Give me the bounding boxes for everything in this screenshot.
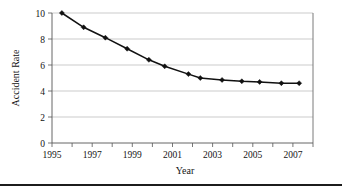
x-tick-label-1997: 1997 bbox=[83, 150, 102, 160]
y-tick-label-8: 8 bbox=[40, 35, 45, 45]
y-tick-label-0: 0 bbox=[40, 139, 45, 149]
x-axis-tick-labels: 1995 1997 1999 2001 2003 2005 2007 bbox=[43, 150, 303, 160]
x-tick-label-1995: 1995 bbox=[43, 150, 62, 160]
y-axis-title: Accident Rate bbox=[10, 49, 21, 106]
y-tick-label-6: 6 bbox=[40, 61, 45, 71]
y-axis-ticks bbox=[48, 13, 52, 143]
footer-rule bbox=[0, 184, 342, 186]
x-tick-label-2007: 2007 bbox=[283, 150, 302, 160]
x-tick-label-1999: 1999 bbox=[123, 150, 142, 160]
x-tick-label-2005: 2005 bbox=[243, 150, 262, 160]
chart-figure: 10 8 6 4 2 0 1995 1997 bbox=[0, 0, 342, 192]
x-tick-label-2001: 2001 bbox=[163, 150, 182, 160]
x-tick-label-2003: 2003 bbox=[203, 150, 222, 160]
y-tick-label-10: 10 bbox=[36, 9, 46, 19]
plot-background bbox=[52, 13, 313, 143]
y-axis-tick-labels: 10 8 6 4 2 0 bbox=[36, 9, 46, 149]
y-tick-label-2: 2 bbox=[40, 113, 45, 123]
y-tick-label-4: 4 bbox=[40, 87, 45, 97]
accident-rate-line-chart: 10 8 6 4 2 0 1995 1997 bbox=[0, 0, 342, 192]
x-axis-title: Year bbox=[176, 165, 195, 176]
x-axis-ticks bbox=[52, 143, 313, 147]
